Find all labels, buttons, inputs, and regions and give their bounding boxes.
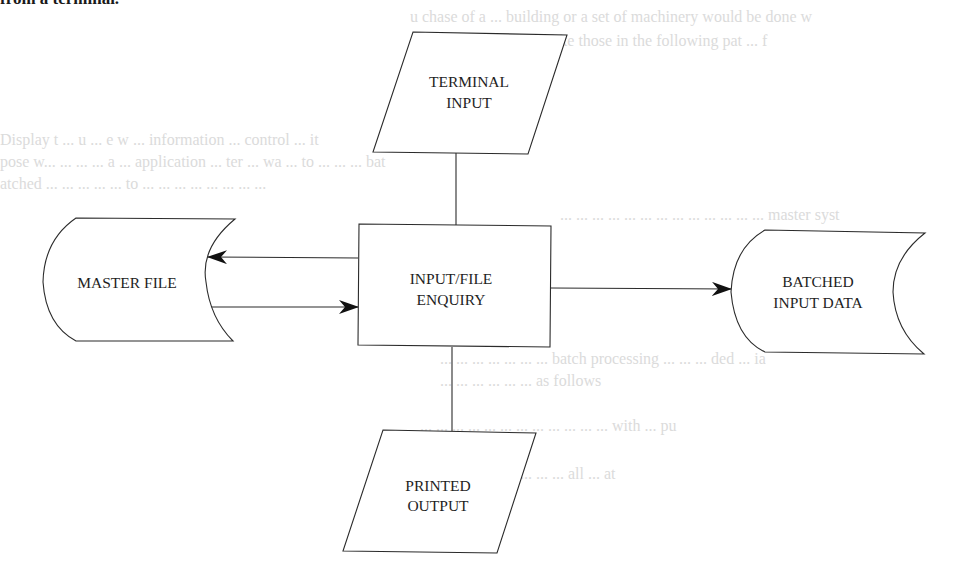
node-input-file-enquiry: INPUT/FILE ENQUIRY [358,224,551,347]
node-printed-output: PRINTED OUTPUT [343,430,536,553]
scanned-page: from a terminal. u chase of a ... buildi… [0,0,956,580]
flowchart: TERMINAL INPUT INPUT/FILE ENQUIRY MASTER… [0,0,956,580]
node-label: PRINTED [405,477,470,494]
node-terminal-input: TERMINAL INPUT [373,32,567,154]
node-master-file: MASTER FILE [43,218,235,341]
node-label: INPUT [446,94,492,111]
storage-shape [731,230,925,354]
node-label: BATCHED [782,273,853,290]
node-label: OUTPUT [407,497,469,514]
edge-enquiry-to-master-file [208,257,358,258]
node-batched-input-data: BATCHED INPUT DATA [731,230,925,354]
node-label: INPUT DATA [773,294,863,311]
node-label: MASTER FILE [77,274,176,291]
node-label: INPUT/FILE [410,270,493,287]
edge-enquiry-to-batched-data [551,288,731,289]
node-label: ENQUIRY [417,291,486,308]
input-output-shape [373,32,567,154]
node-label: TERMINAL [429,73,509,90]
